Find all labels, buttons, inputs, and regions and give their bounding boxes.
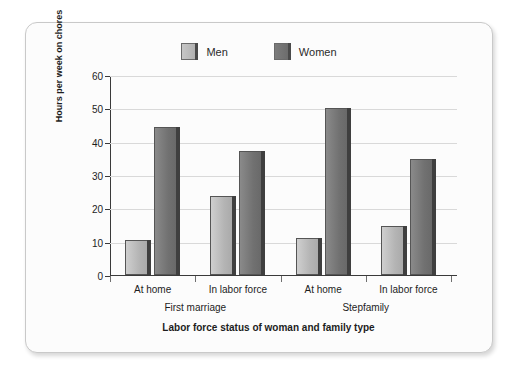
bar-men-1 (210, 196, 236, 275)
women-swatch-icon (274, 43, 291, 60)
x-axis-line (110, 275, 457, 276)
y-tick-label: 40 (92, 137, 103, 148)
x-axis-title: Labor force status of woman and family t… (76, 322, 461, 333)
bar-women-0 (154, 127, 180, 275)
chart-screenshot: Men Women Hours per week on chores 01020… (0, 0, 520, 377)
legend-item-men: Men (181, 43, 227, 60)
bar-series-layer (110, 76, 451, 276)
legend-label-men: Men (206, 46, 227, 58)
x-tick-label: In labor force (209, 284, 267, 295)
men-swatch-icon (181, 43, 198, 60)
x-tick-separator (451, 276, 452, 282)
bar-women-1 (239, 151, 265, 275)
y-axis-title: Hours per week on chores (54, 6, 64, 126)
y-tick-label: 50 (92, 104, 103, 115)
bar-women-3 (410, 159, 436, 275)
y-tick-label: 20 (92, 204, 103, 215)
plot-area: Hours per week on chores 0102030405060 A… (76, 76, 461, 331)
chart-card: Men Women Hours per week on chores 01020… (25, 22, 493, 353)
legend-label-women: Women (299, 46, 337, 58)
y-tick-label: 0 (97, 271, 103, 282)
y-tick-label: 30 (92, 171, 103, 182)
x-tick-label: At home (134, 284, 171, 295)
x-group-labels: First marriageStepfamily (110, 302, 451, 316)
x-tick-label: In labor force (379, 284, 437, 295)
bar-men-0 (125, 240, 151, 275)
x-tick-separator (195, 276, 196, 282)
x-group-label: Stepfamily (342, 302, 389, 313)
bar-men-3 (381, 226, 407, 275)
legend-item-women: Women (274, 43, 337, 60)
y-tick-label: 60 (92, 71, 103, 82)
chart-legend: Men Women (26, 43, 492, 60)
x-tick-label: At home (305, 284, 342, 295)
x-group-label: First marriage (164, 302, 226, 313)
x-tick-separator (281, 276, 282, 282)
bar-men-2 (296, 238, 322, 275)
x-tick-separator (366, 276, 367, 282)
bar-women-2 (325, 108, 351, 275)
axis-area: 0102030405060 (110, 76, 451, 276)
x-tick-labels: At homeIn labor forceAt homeIn labor for… (110, 284, 451, 298)
x-tick-separator (110, 276, 111, 282)
y-tick-label: 10 (92, 237, 103, 248)
